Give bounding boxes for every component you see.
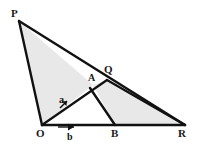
vertex-label-a: A xyxy=(88,73,95,83)
vector-label-b: b xyxy=(67,132,73,142)
vertex-label-q: Q xyxy=(104,64,113,75)
vertex-label-b: B xyxy=(111,128,118,139)
vertex-label-p: P xyxy=(11,8,18,19)
figure-canvas xyxy=(0,0,198,147)
geometry-figure: P O A Q B R a b xyxy=(0,0,198,147)
vertex-label-r: R xyxy=(178,128,186,139)
vertex-label-o: O xyxy=(36,128,45,139)
vector-label-a: a xyxy=(59,95,64,105)
